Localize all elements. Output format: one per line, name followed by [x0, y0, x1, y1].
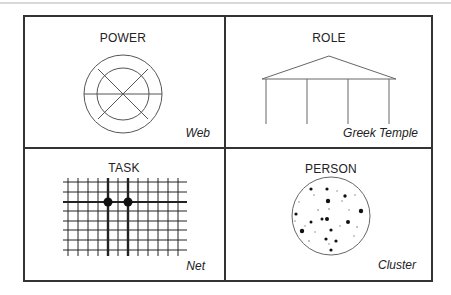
cluster-icon — [292, 177, 370, 255]
diagram-figures — [0, 0, 451, 295]
temple-icon — [262, 56, 396, 124]
net-icon — [63, 178, 187, 256]
web-icon — [84, 55, 162, 133]
